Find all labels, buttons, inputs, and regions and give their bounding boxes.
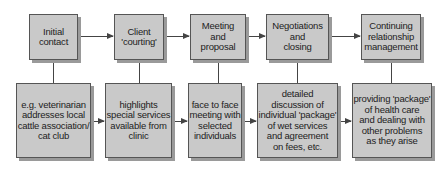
stage-box-negotiations-closing: Negotiations and closing — [266, 14, 329, 60]
detail-text: providing 'package' of health care and d… — [354, 94, 431, 147]
detail-text: face to face meeting with selected indiv… — [190, 100, 241, 142]
stage-box-relationship-management: Continuing relationship management — [361, 14, 421, 60]
connector-2 — [139, 60, 140, 83]
stage-label: Client 'courting' — [121, 27, 156, 48]
arrow-top-1 — [78, 36, 113, 37]
detail-box-relationship-management: providing 'package' of health care and d… — [352, 83, 432, 158]
stage-box-client-courting: Client 'courting' — [114, 14, 164, 60]
stage-label: Negotiations and closing — [272, 21, 322, 53]
detail-box-negotiations-closing: detailed discussion of individual 'packa… — [257, 83, 338, 158]
arrow-bottom-3 — [245, 121, 256, 122]
stage-box-initial-contact: Initial contact — [29, 14, 78, 60]
connector-1 — [53, 60, 54, 83]
detail-text: detailed discussion of individual 'packa… — [259, 89, 337, 152]
detail-box-meeting-proposal: face to face meeting with selected indiv… — [188, 83, 242, 158]
stage-box-meeting-proposal: Meeting and proposal — [190, 14, 246, 60]
stage-label: Continuing relationship management — [364, 21, 417, 53]
connector-3 — [218, 60, 219, 83]
stage-label: Meeting and proposal — [201, 21, 236, 53]
arrow-bottom-2 — [175, 121, 187, 122]
arrow-bottom-1 — [94, 121, 104, 122]
arrow-top-2 — [164, 36, 189, 37]
arrow-top-3 — [246, 36, 265, 37]
arrow-top-4 — [329, 36, 360, 37]
detail-box-initial-contact: e.g. veterinarian addresses local cattle… — [16, 83, 91, 158]
detail-box-client-courting: highlights special services available fr… — [105, 83, 172, 158]
stage-label: Initial contact — [39, 27, 68, 48]
detail-text: highlights special services available fr… — [107, 100, 171, 142]
arrow-bottom-4 — [341, 121, 351, 122]
connector-5 — [391, 60, 392, 83]
detail-text: e.g. veterinarian addresses local cattle… — [18, 100, 90, 142]
connector-4 — [297, 60, 298, 83]
